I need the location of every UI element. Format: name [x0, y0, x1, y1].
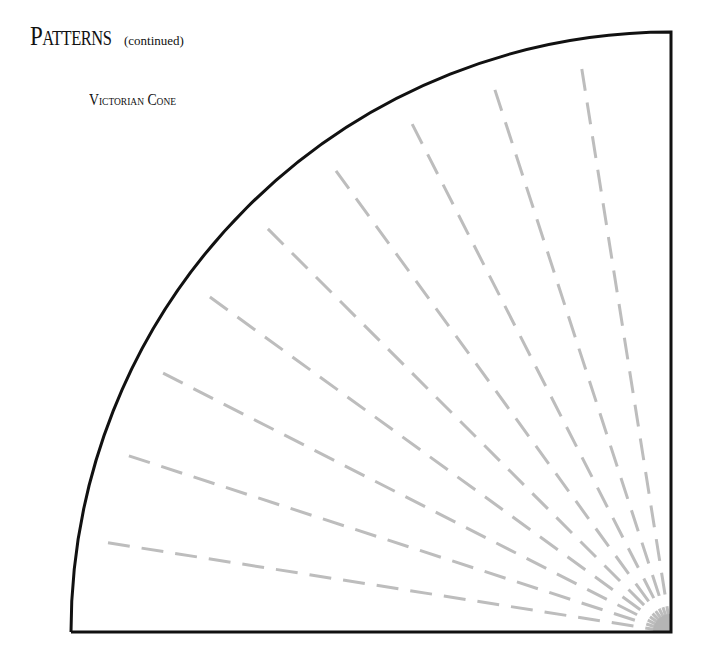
victorian-cone-pattern [0, 0, 702, 666]
fold-guide-ray [163, 373, 662, 627]
fold-guide-ray [210, 297, 663, 626]
fold-guide-rays [108, 69, 669, 630]
fold-guide-ray [412, 124, 666, 623]
fold-guide-ray [582, 69, 670, 622]
fold-guide-ray [336, 171, 665, 624]
fold-guide-ray [108, 543, 661, 631]
